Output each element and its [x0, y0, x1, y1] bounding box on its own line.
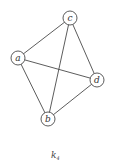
caption: k4 [51, 150, 60, 161]
edge-a-b [18, 58, 48, 119]
node-label: c [67, 13, 72, 23]
node-a: a [11, 51, 25, 65]
node-c: c [63, 11, 77, 25]
node-label: a [15, 53, 20, 63]
complete-graph-k4-diagram: abcd k4 [0, 0, 113, 164]
edge-c-d [70, 18, 97, 80]
node-d: d [90, 73, 104, 87]
node-label: d [94, 75, 100, 85]
edges [18, 18, 97, 119]
node-b: b [41, 112, 55, 126]
nodes: abcd [11, 11, 104, 126]
node-label: b [45, 114, 51, 124]
caption-subscript: 4 [55, 155, 59, 161]
